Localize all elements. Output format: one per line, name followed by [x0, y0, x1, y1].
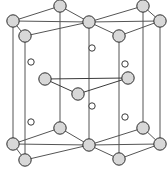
small-atom	[28, 59, 34, 65]
large-atom	[7, 138, 19, 150]
large-atom	[154, 138, 166, 150]
large-atom	[19, 154, 31, 166]
large-atom	[113, 153, 125, 165]
large-atom	[154, 15, 166, 27]
small-atom	[122, 61, 128, 67]
large-atom	[54, 0, 66, 12]
crystal-structure-diagram	[0, 0, 167, 172]
large-atom	[54, 122, 66, 134]
small-atom	[89, 45, 95, 51]
large-atom	[72, 88, 84, 100]
large-atom	[83, 139, 95, 151]
large-atom	[137, 122, 149, 134]
large-atom	[137, 0, 149, 12]
small-atom	[122, 114, 128, 120]
small-atom	[28, 119, 34, 125]
large-atom	[122, 72, 134, 84]
large-atom	[19, 30, 31, 42]
large-atom	[7, 15, 19, 27]
large-atom	[113, 30, 125, 42]
small-atom	[89, 103, 95, 109]
large-atom	[83, 16, 95, 28]
large-atom	[39, 73, 51, 85]
crystal-structure-figure	[0, 0, 167, 172]
